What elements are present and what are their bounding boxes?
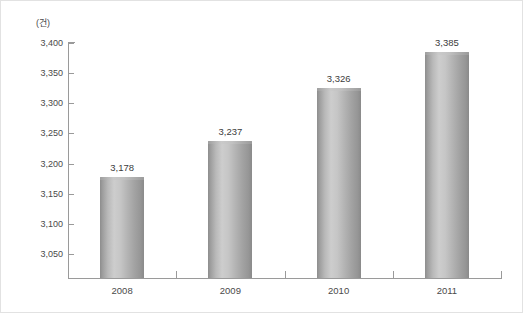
y-axis-tick: [68, 43, 74, 44]
y-axis-tick: [68, 224, 74, 225]
y-axis-tick-label: 3,300: [23, 98, 63, 108]
bar-value-label: 3,237: [218, 126, 242, 137]
bar-2011: [425, 52, 469, 278]
bar-top-cap: [208, 141, 252, 144]
x-axis-label-2008: 2008: [112, 285, 133, 296]
x-axis-label-2010: 2010: [328, 285, 349, 296]
bar-top-cap: [317, 88, 361, 91]
x-axis-label-2009: 2009: [220, 285, 241, 296]
bar-top-cap: [100, 177, 144, 180]
y-axis-tick-label: 3,150: [23, 189, 63, 199]
bar-2010: [317, 88, 361, 278]
bar-2008: [100, 177, 144, 278]
bar-value-label: 3,326: [327, 73, 351, 84]
bar-value-label: 3,385: [435, 37, 459, 48]
bar-value-label: 3,178: [110, 162, 134, 173]
bar-2009: [208, 141, 252, 278]
y-axis-tick: [68, 103, 74, 104]
x-axis-separator-tick: [285, 271, 286, 279]
unit-label: (건): [36, 16, 50, 29]
bar-top-cap: [425, 52, 469, 55]
y-axis-tick: [68, 133, 74, 134]
x-axis-label-2011: 2011: [437, 285, 457, 296]
x-axis-separator-tick: [176, 271, 177, 279]
y-axis-tick-label: 3,350: [23, 68, 63, 78]
bar-chart: (건) 3,0503,1003,1503,2003,2503,3003,3503…: [0, 0, 523, 313]
x-axis-separator-tick: [393, 271, 394, 279]
y-axis-tick-label: 3,050: [23, 249, 63, 259]
y-axis-tick: [68, 164, 74, 165]
y-axis-tick-label: 3,100: [23, 219, 63, 229]
y-axis-tick-label: 3,200: [23, 159, 63, 169]
y-axis-tick: [68, 254, 74, 255]
x-axis-right-cap: [501, 271, 502, 279]
y-axis-tick-label: 3,250: [23, 128, 63, 138]
y-axis-tick: [68, 73, 74, 74]
y-axis-line: [68, 42, 69, 279]
y-axis-tick-label: 3,400: [23, 38, 63, 48]
y-axis-tick: [68, 194, 74, 195]
